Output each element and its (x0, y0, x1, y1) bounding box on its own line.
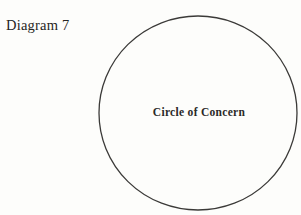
circle-of-concern-label: Circle of Concern (153, 106, 245, 118)
circle-of-concern-svg (0, 0, 301, 215)
diagram-canvas: Diagram 7 Circle of Concern (0, 0, 301, 215)
